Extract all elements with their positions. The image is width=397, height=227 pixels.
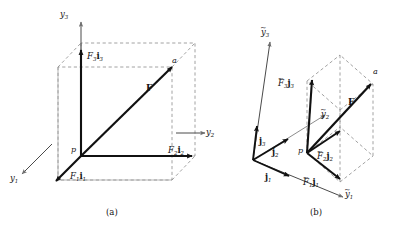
panel-a-vector-F — [81, 67, 172, 156]
panel-a-label-F1i1: F1i1 — [70, 172, 86, 182]
figure-svg — [0, 0, 397, 227]
panel-a-label-y2: y2 — [206, 128, 214, 138]
panel-a-label-F: F — [146, 84, 152, 93]
panel-b-caption: (b) — [310, 207, 322, 217]
panel-b-point-p: p — [298, 147, 303, 155]
figure-container: y3 y2 y1 p a F F3i3 F2i2 F1i1 (a) ~y3 ~y… — [0, 0, 397, 227]
panel-a-caption: (a) — [106, 207, 118, 217]
panel-b-point-a: a — [373, 68, 378, 76]
panel-b-label-F3j3: ~F3j3 — [278, 79, 294, 89]
panel-b-vector-j3 — [253, 126, 257, 160]
panel-b-vector-F — [307, 84, 371, 153]
panel-a-axis-y1 — [22, 144, 52, 174]
panel-b-label-j3: j3 — [259, 137, 266, 147]
panel-b-label-j2: j2 — [272, 148, 279, 158]
panel-b-label-j1: j1 — [265, 173, 272, 183]
panel-b-label-y3-tilde: ~y3 — [261, 28, 269, 38]
panel-b-label-y2-tilde: ~y2 — [321, 110, 329, 120]
panel-a-point-a: a — [172, 57, 177, 65]
panel-b-label-F1j1: ~F1j1 — [303, 178, 319, 188]
panel-a-label-y3: y3 — [60, 10, 68, 20]
panel-a-point-p: p — [71, 146, 76, 154]
panel-b-vector-F3j3 — [307, 80, 312, 153]
panel-b-label-y1-tilde: ~y1 — [345, 190, 353, 200]
panel-b-label-F2j2: ~F2j2 — [317, 152, 333, 162]
panel-a-label-F3i3: F3i3 — [87, 52, 103, 62]
panel-a-label-F2i2: F2i2 — [168, 146, 184, 156]
panel-a-graphic — [22, 22, 205, 181]
panel-a-label-y1: y1 — [10, 174, 18, 184]
panel-b-label-F: F — [348, 98, 354, 107]
